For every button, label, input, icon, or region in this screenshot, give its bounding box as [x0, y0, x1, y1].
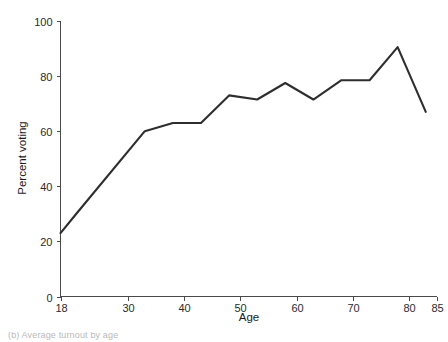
- line-chart-svg: 020406080100 1830405060708085 Age Percen…: [0, 0, 448, 342]
- x-tick-label: 60: [291, 302, 303, 314]
- x-tick-label: 80: [403, 302, 415, 314]
- y-tick-label: 100: [34, 16, 52, 28]
- x-axis-title: Age: [239, 311, 259, 323]
- x-tick-label: 40: [178, 302, 190, 314]
- y-axis-title: Percent voting: [16, 121, 28, 195]
- chart-figure: 020406080100 1830405060708085 Age Percen…: [0, 0, 448, 342]
- chart-background: [0, 0, 448, 342]
- y-tick-label: 20: [40, 236, 52, 248]
- x-tick-label: 18: [55, 302, 67, 314]
- x-tick-label: 85: [431, 302, 443, 314]
- x-tick-label: 30: [122, 302, 134, 314]
- y-tick-label: 60: [40, 126, 52, 138]
- x-tick-label: 70: [347, 302, 359, 314]
- y-tick-label: 0: [46, 292, 52, 304]
- y-tick-label: 80: [40, 71, 52, 83]
- y-tick-label: 40: [40, 181, 52, 193]
